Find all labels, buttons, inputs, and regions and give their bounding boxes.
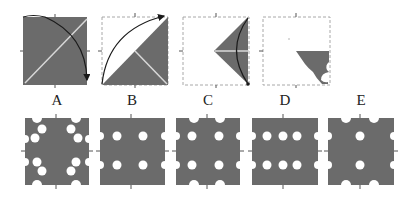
option-b-shape[interactable] (96, 114, 169, 189)
option-d-label: D (252, 92, 318, 109)
option-a-shape[interactable] (21, 113, 93, 190)
option-e-shape[interactable] (324, 113, 398, 190)
fold-step-2 (98, 13, 168, 88)
option-a-label: A (24, 92, 90, 109)
fold-step-1 (20, 14, 90, 88)
option-b-label: B (99, 92, 165, 109)
option-e-label: E (328, 92, 394, 109)
option-d-shape[interactable] (248, 114, 322, 189)
option-c-label: C (175, 92, 241, 109)
fold-step-4 (259, 13, 330, 88)
fold-step-3 (179, 13, 250, 88)
option-c-shape[interactable] (172, 113, 244, 190)
